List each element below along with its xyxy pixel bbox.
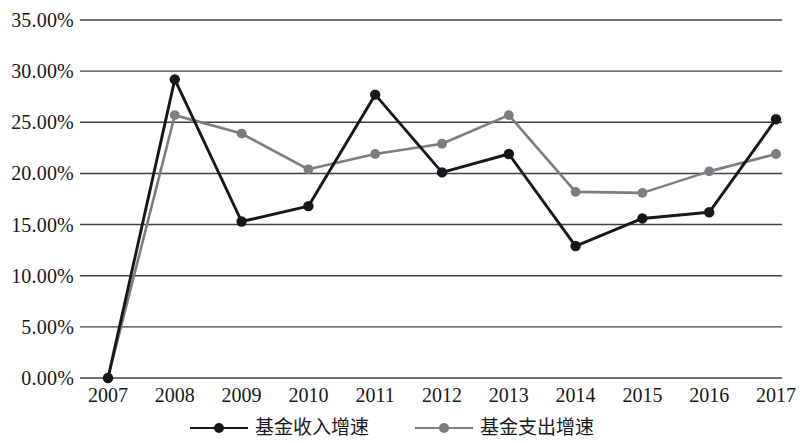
- legend-label-income: 基金收入增速: [255, 418, 369, 437]
- y-axis-tick-label: 5.00%: [0, 317, 74, 337]
- x-axis-tick-label: 2008: [140, 385, 210, 405]
- data-point[interactable]: [370, 89, 380, 99]
- data-point[interactable]: [437, 167, 447, 177]
- legend-marker-income-icon: [190, 421, 248, 435]
- data-point[interactable]: [570, 241, 580, 251]
- x-axis-tick-label: 2012: [407, 385, 477, 405]
- x-axis-tick-label: 2014: [541, 385, 611, 405]
- data-point[interactable]: [170, 74, 180, 84]
- x-axis-tick-label: 2007: [73, 385, 143, 405]
- series-line-expense: [108, 115, 776, 378]
- x-axis-tick-label: 2011: [340, 385, 410, 405]
- data-point[interactable]: [704, 166, 714, 176]
- y-axis-tick-label: 25.00%: [0, 112, 74, 132]
- data-point[interactable]: [638, 188, 648, 198]
- x-axis-tick-label: 2016: [674, 385, 744, 405]
- data-point[interactable]: [771, 114, 781, 124]
- x-axis-tick-label: 2013: [474, 385, 544, 405]
- x-axis-tick-label: 2015: [607, 385, 677, 405]
- data-point[interactable]: [504, 149, 514, 159]
- data-point[interactable]: [571, 187, 581, 197]
- y-axis-tick-label: 15.00%: [0, 215, 74, 235]
- legend-marker-expense-icon: [415, 421, 473, 435]
- data-point[interactable]: [304, 164, 314, 174]
- data-point[interactable]: [236, 216, 246, 226]
- data-point[interactable]: [637, 213, 647, 223]
- y-axis-tick-label: 35.00%: [0, 10, 74, 30]
- y-axis-tick-label: 0.00%: [0, 368, 74, 388]
- legend-item-income[interactable]: 基金收入增速: [190, 418, 369, 437]
- chart-legend: 基金收入增速 基金支出增速: [0, 412, 784, 443]
- x-axis-tick-label: 2010: [273, 385, 343, 405]
- x-axis-tick-label: 2009: [207, 385, 277, 405]
- data-point[interactable]: [303, 201, 313, 211]
- data-point[interactable]: [370, 149, 380, 159]
- data-point[interactable]: [704, 207, 714, 217]
- legend-label-expense: 基金支出增速: [480, 418, 594, 437]
- series-layer: [103, 74, 781, 383]
- y-axis-tick-label: 30.00%: [0, 61, 74, 81]
- gridlines: [80, 20, 782, 378]
- data-point[interactable]: [237, 129, 247, 139]
- data-point[interactable]: [504, 110, 514, 120]
- y-axis-tick-label: 10.00%: [0, 266, 74, 286]
- data-point[interactable]: [771, 149, 781, 159]
- data-point[interactable]: [170, 110, 180, 120]
- y-axis-tick-label: 20.00%: [0, 163, 74, 183]
- data-point[interactable]: [437, 139, 447, 149]
- x-axis-tick-label: 2017: [741, 385, 801, 405]
- data-point[interactable]: [103, 373, 113, 383]
- legend-item-expense[interactable]: 基金支出增速: [415, 418, 594, 437]
